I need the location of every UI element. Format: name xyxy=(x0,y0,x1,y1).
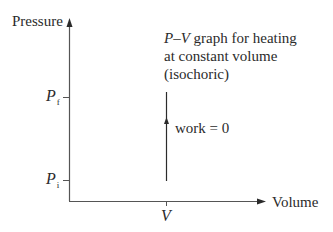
volume-tick-label: V xyxy=(161,207,173,224)
p-final-label: Pf xyxy=(45,87,60,107)
diagram-title: P–V graph for heating at constant volume… xyxy=(163,30,297,83)
work-label: work = 0 xyxy=(175,120,229,136)
y-axis-arrowhead-icon xyxy=(67,18,73,27)
pv-diagram: Pressure Volume Pf Pi V work = 0 P–V xyxy=(0,0,333,232)
x-axis-label: Volume xyxy=(272,194,319,210)
title-line-2: at constant volume xyxy=(164,48,278,64)
y-axis xyxy=(67,18,73,201)
process-direction-arrow-icon xyxy=(164,117,169,124)
y-axis-label: Pressure xyxy=(12,13,63,29)
title-line-3: (isochoric) xyxy=(164,66,229,83)
x-axis xyxy=(69,199,266,205)
p-initial-label: Pi xyxy=(45,170,60,190)
title-line-1: P–V graph for heating xyxy=(163,30,297,46)
x-axis-arrowhead-icon xyxy=(257,199,266,205)
isochoric-process-line xyxy=(164,92,169,181)
